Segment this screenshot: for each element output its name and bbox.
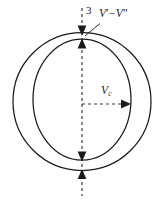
figure-container: 3 V′−V″ Vc [0,0,166,201]
minus-operator: − [108,7,116,19]
vc-subscript: c [108,89,111,98]
top-inner-arrowhead-up-icon [78,39,87,49]
potential-difference-label: V′−V″ [99,8,127,20]
double-prime-mark: ″ [123,7,128,19]
v-double-prime-symbol: V [116,7,123,19]
v-prime-symbol: V [99,7,106,19]
vc-symbol: V [101,84,108,96]
vc-label: Vc [101,85,111,97]
vc-arrowhead-icon [121,99,131,108]
top-outer-arrowhead-down-icon [78,26,87,36]
thickness-label: 3 [86,5,92,16]
diagram-canvas [0,0,166,201]
outer-circle-sphere-outline [13,33,151,171]
